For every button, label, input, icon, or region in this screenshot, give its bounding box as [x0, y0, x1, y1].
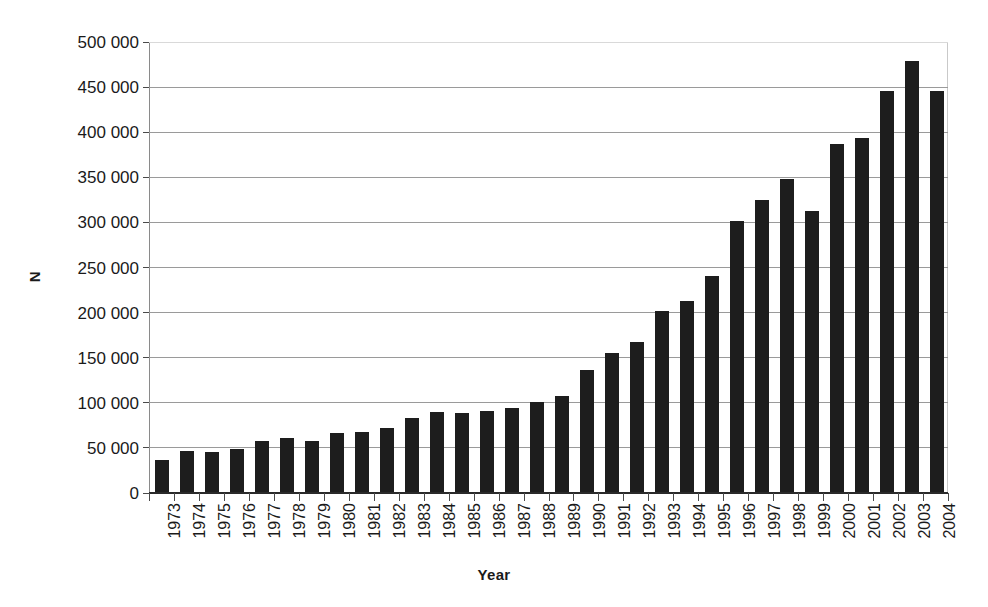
bar — [805, 211, 819, 492]
x-tick-mark — [424, 493, 425, 501]
x-tick-mark — [274, 493, 275, 501]
bar — [455, 413, 469, 492]
y-tick-label: 300 000 — [78, 214, 139, 231]
x-axis-title: Year — [0, 566, 988, 583]
x-tick-mark — [848, 493, 849, 501]
x-tick-label: 1978 — [292, 503, 308, 559]
x-tick-mark — [648, 493, 649, 501]
bar — [855, 138, 869, 492]
bar — [180, 451, 194, 492]
x-tick-label: 1990 — [592, 503, 608, 559]
x-tick-mark — [199, 493, 200, 501]
bar-chart-figure: N 050 000100 000150 000200 000250 000300… — [0, 0, 988, 607]
x-tick-label: 1997 — [767, 503, 783, 559]
x-tick-mark — [898, 493, 899, 501]
x-axis-tick-labels: 1973197419751976197719781979198019811982… — [149, 503, 948, 559]
x-tick-label: 2003 — [917, 503, 933, 559]
x-tick-mark — [174, 493, 175, 501]
x-tick-label: 1981 — [367, 503, 383, 559]
x-tick-label: 1999 — [817, 503, 833, 559]
bar — [530, 402, 544, 492]
bar — [630, 342, 644, 492]
x-tick-mark — [873, 493, 874, 501]
x-tick-mark — [474, 493, 475, 501]
x-tick-mark — [324, 493, 325, 501]
bar — [280, 438, 294, 492]
x-tick-label: 1996 — [742, 503, 758, 559]
bar — [880, 91, 894, 492]
x-tick-mark — [948, 493, 949, 501]
x-tick-label: 2001 — [867, 503, 883, 559]
x-tick-mark — [823, 493, 824, 501]
x-tick-label: 1991 — [617, 503, 633, 559]
x-tick-mark — [349, 493, 350, 501]
x-tick-mark — [449, 493, 450, 501]
x-tick-label: 1979 — [317, 503, 333, 559]
y-tick-label: 500 000 — [78, 34, 139, 51]
x-tick-mark — [773, 493, 774, 501]
x-tick-mark — [923, 493, 924, 501]
x-tick-mark — [374, 493, 375, 501]
x-tick-label: 1988 — [542, 503, 558, 559]
bar — [355, 432, 369, 492]
bar — [380, 428, 394, 492]
bars-series — [149, 42, 948, 493]
x-tick-label: 2004 — [942, 503, 958, 559]
bar — [430, 412, 444, 492]
x-tick-mark — [723, 493, 724, 501]
x-tick-mark — [573, 493, 574, 501]
bar — [480, 411, 494, 492]
bar — [580, 370, 594, 492]
bar — [305, 441, 319, 492]
x-tick-mark — [149, 493, 150, 501]
bar — [830, 144, 844, 492]
bar — [255, 441, 269, 492]
bar — [930, 91, 944, 492]
x-tick-label: 1985 — [467, 503, 483, 559]
x-tick-label: 1976 — [242, 503, 258, 559]
x-tick-label: 1973 — [167, 503, 183, 559]
bar — [555, 396, 569, 492]
bar — [705, 276, 719, 492]
x-tick-mark — [598, 493, 599, 501]
x-tick-label: 1993 — [667, 503, 683, 559]
x-tick-mark — [249, 493, 250, 501]
x-tick-label: 1989 — [567, 503, 583, 559]
bar — [730, 221, 744, 492]
x-tick-mark — [399, 493, 400, 501]
bar — [905, 61, 919, 492]
x-tick-mark — [299, 493, 300, 501]
y-tick-label: 100 000 — [78, 394, 139, 411]
x-tick-label: 2000 — [842, 503, 858, 559]
y-tick-label: 200 000 — [78, 304, 139, 321]
y-tick-label: 250 000 — [78, 259, 139, 276]
y-tick-label: 50 000 — [87, 439, 139, 456]
x-tick-label: 1975 — [217, 503, 233, 559]
x-tick-mark — [499, 493, 500, 501]
bar — [330, 433, 344, 492]
x-tick-mark — [698, 493, 699, 501]
bar — [155, 460, 169, 492]
y-axis-title: N — [26, 257, 43, 297]
x-tick-mark — [549, 493, 550, 501]
x-tick-label: 1994 — [692, 503, 708, 559]
x-tick-mark — [798, 493, 799, 501]
bar — [205, 452, 219, 492]
x-tick-label: 1977 — [267, 503, 283, 559]
bar — [405, 418, 419, 492]
bar — [680, 301, 694, 492]
bar — [755, 200, 769, 492]
x-tick-label: 1987 — [517, 503, 533, 559]
plot-area: 050 000100 000150 000200 000250 000300 0… — [149, 42, 948, 493]
bar — [505, 408, 519, 492]
y-tick-label: 0 — [130, 485, 139, 502]
x-tick-label: 1998 — [792, 503, 808, 559]
y-tick-label: 350 000 — [78, 169, 139, 186]
x-tick-mark — [524, 493, 525, 501]
x-tick-label: 1995 — [717, 503, 733, 559]
x-tick-label: 1984 — [442, 503, 458, 559]
bar — [655, 311, 669, 492]
x-tick-mark — [224, 493, 225, 501]
x-tick-label: 1982 — [392, 503, 408, 559]
y-tick-label: 150 000 — [78, 349, 139, 366]
